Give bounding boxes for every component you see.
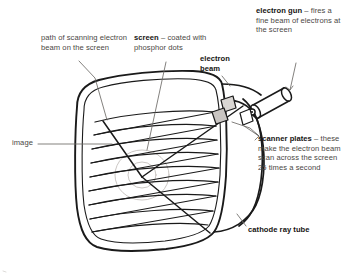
label-screen-term: screen: [134, 33, 159, 42]
label-electron-gun: electron gun – fires a fine beam of elec…: [256, 6, 344, 35]
label-cathode-ray-tube-term: cathode ray tube: [248, 225, 310, 234]
label-electron-beam: electron beam: [200, 54, 250, 75]
label-image-text: image: [12, 138, 33, 147]
label-image: image: [12, 138, 52, 148]
label-scanner-plates-term: scanner plates: [258, 134, 312, 143]
diagram-canvas: path of scanning electron beam on the sc…: [0, 0, 346, 280]
label-cathode-ray-tube: cathode ray tube: [248, 225, 344, 235]
label-path-text: path of scanning electron beam on the sc…: [41, 33, 127, 52]
label-screen: screen – coated with phosphor dots: [134, 33, 226, 52]
label-scanner-plates: scanner plates – these make the electron…: [258, 134, 344, 172]
scanner-plate-side: [240, 109, 253, 125]
scan-speck: [3, 271, 6, 272]
label-path-of-scanning-beam: path of scanning electron beam on the sc…: [41, 33, 137, 52]
screen-face: [75, 71, 227, 251]
label-electron-gun-term: electron gun: [256, 6, 302, 15]
label-electron-beam-term: electron beam: [200, 54, 230, 73]
